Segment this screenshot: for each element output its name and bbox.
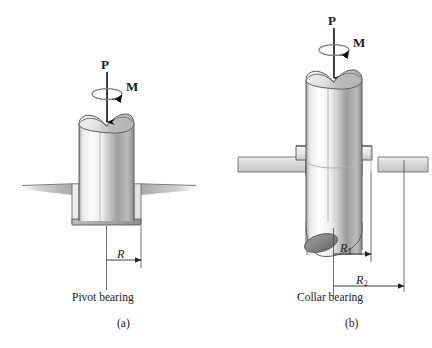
dim-label-R-a: R	[117, 247, 124, 262]
dim-label-R1-subscript: 1	[347, 247, 352, 256]
bearing-diagram-svg	[0, 0, 432, 348]
shaft-body-a	[79, 124, 134, 221]
dim-label-R2-subscript: 2	[363, 279, 368, 288]
subcaption-b: (b)	[345, 317, 358, 329]
panel-a-graphics	[22, 72, 196, 290]
caption-b: Collar bearing	[297, 291, 363, 303]
dim-label-R2-b: R2	[356, 273, 368, 288]
force-label-P-b: P	[328, 13, 336, 29]
moment-label-M-a: M	[126, 79, 138, 95]
subcaption-a: (a)	[117, 317, 130, 329]
socket-wall-right	[134, 184, 141, 224]
socket-wall-left	[72, 184, 79, 224]
force-label-P-a: P	[101, 57, 109, 73]
figure-container: P M R Pivot bearing (a) P M R1 R2 Collar…	[0, 0, 432, 348]
support-slab-right	[378, 157, 428, 172]
panel-b-graphics	[238, 28, 428, 296]
caption-a: Pivot bearing	[72, 291, 134, 303]
dim-label-R1-b: R1	[340, 241, 352, 256]
moment-label-M-b: M	[353, 35, 365, 51]
